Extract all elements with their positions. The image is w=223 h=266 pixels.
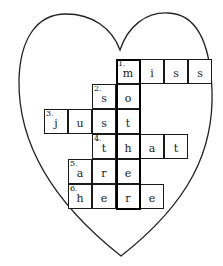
cell-letter: j xyxy=(54,117,57,130)
cell-letter: e xyxy=(101,192,108,205)
crossword-cell[interactable]: t xyxy=(116,109,140,134)
crossword-cell[interactable]: r xyxy=(116,184,140,209)
clue-number: 4. xyxy=(94,134,102,144)
cell-letter: t xyxy=(174,142,178,155)
clue-number: 2. xyxy=(94,84,102,94)
crossword-cell[interactable]: r xyxy=(92,159,116,184)
cell-letter: e xyxy=(125,167,132,180)
crossword-cell[interactable]: s xyxy=(188,59,212,84)
crossword-cell[interactable]: s xyxy=(92,109,116,134)
cell-letter: s xyxy=(173,67,179,80)
cell-letter: a xyxy=(149,142,156,155)
cell-letter: t xyxy=(102,142,106,155)
crossword-cell[interactable]: 1.m xyxy=(116,59,140,84)
clue-number: 6. xyxy=(70,184,78,194)
crossword-cell[interactable]: t xyxy=(164,134,188,159)
cell-letter: s xyxy=(101,117,107,130)
clue-number: 5. xyxy=(70,159,78,169)
cell-letter: t xyxy=(126,117,130,130)
crossword-cell[interactable]: 6.h xyxy=(68,184,92,209)
crossword-cell[interactable]: e xyxy=(92,184,116,209)
crossword-cell[interactable]: 4.t xyxy=(92,134,116,159)
cell-letter: s xyxy=(101,92,107,105)
crossword-cell[interactable]: i xyxy=(140,59,164,84)
crossword-cell[interactable]: o xyxy=(116,84,140,109)
crossword-cell[interactable]: s xyxy=(164,59,188,84)
crossword-cell[interactable]: e xyxy=(116,159,140,184)
crossword-cell[interactable]: e xyxy=(140,184,164,209)
crossword-cell[interactable]: h xyxy=(116,134,140,159)
crossword-cell[interactable]: a xyxy=(140,134,164,159)
cell-letter: i xyxy=(150,67,154,80)
clue-number: 3. xyxy=(46,109,54,119)
cell-letter: e xyxy=(149,192,156,205)
clue-number: 1. xyxy=(118,59,126,69)
crossword-cell[interactable]: 3.j xyxy=(44,109,68,134)
crossword-cell[interactable]: 5.a xyxy=(68,159,92,184)
cell-letter: o xyxy=(125,92,132,105)
cell-letter: u xyxy=(76,117,83,130)
cell-letter: h xyxy=(124,142,131,155)
crossword-cell[interactable]: u xyxy=(68,109,92,134)
cell-letter: a xyxy=(77,167,84,180)
cell-letter: s xyxy=(197,67,203,80)
cell-letter: r xyxy=(101,167,106,180)
cell-letter: r xyxy=(125,192,130,205)
crossword-cell[interactable]: 2.s xyxy=(92,84,116,109)
